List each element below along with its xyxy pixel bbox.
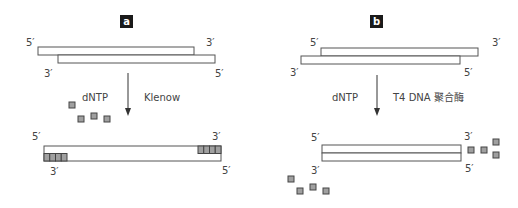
nucleotide-icon xyxy=(69,102,75,108)
panel-a-substrate: 5′ 3′ 3′ 5′ xyxy=(26,37,224,79)
panel-a-substrate-bottom-right-end: 5′ xyxy=(215,68,224,79)
arrow-head-icon xyxy=(125,108,131,116)
nucleotide-icon xyxy=(78,116,84,122)
nucleotide-icon xyxy=(288,176,294,182)
nucleotide-icon xyxy=(468,147,474,153)
panel-a-reaction-arrow xyxy=(125,73,131,116)
nucleotide-icon xyxy=(493,139,499,145)
panel-a-substrate-top-right-end: 3′ xyxy=(206,37,215,48)
nucleotide-icon xyxy=(310,184,316,190)
panel-b-substrate-top-right-end: 3′ xyxy=(492,37,501,48)
panel-b-product-top-strand xyxy=(322,145,461,153)
panel-a-product-duplex xyxy=(44,146,221,161)
panel-a-product-bottom-right-end: 5′ xyxy=(222,165,231,176)
panel-b-substrate: 5′ 3′ 3′ 5′ xyxy=(290,37,501,78)
panel-b-product-top-left-end: 5′ xyxy=(311,132,320,143)
panel-a-left-fill-in xyxy=(44,154,67,162)
panel-b-substrate-bottom-left-end: 3′ xyxy=(290,67,299,78)
panel-a-substrate-bottom-left-end: 3′ xyxy=(44,68,53,79)
panel-b: b 5′ 3′ 3′ 5′ dNTP T4 DNA 聚合酶 5′ 3′ 3′ 5… xyxy=(288,15,501,194)
panel-a: a 5′ 3′ 3′ 5′ dNTP Klenow xyxy=(26,15,231,177)
panel-b-released-nucleotides-left xyxy=(288,176,329,194)
panel-a-badge-label: a xyxy=(123,16,130,27)
nucleotide-icon xyxy=(323,188,329,194)
panel-b-released-nucleotides-right xyxy=(468,139,499,158)
panel-b-reaction-arrow xyxy=(374,75,380,116)
panel-a-product: 5′ 3′ 3′ 5′ xyxy=(32,131,231,177)
nucleotide-icon xyxy=(297,188,303,194)
panel-a-badge: a xyxy=(120,15,133,28)
panel-b-product-bottom-strand xyxy=(322,153,461,161)
nucleotide-icon xyxy=(91,113,97,119)
panel-b-bottom-strand xyxy=(301,56,460,64)
diagram-canvas: a 5′ 3′ 3′ 5′ dNTP Klenow xyxy=(0,0,518,208)
panel-b-top-strand xyxy=(321,48,478,56)
panel-a-top-strand xyxy=(38,47,194,55)
panel-a-substrate-top-left-end: 5′ xyxy=(26,37,35,48)
panel-a-bottom-strand xyxy=(58,55,215,63)
panel-b-product-top-right-end: 3′ xyxy=(464,131,473,142)
panel-a-enzyme-label: Klenow xyxy=(144,92,180,103)
panel-a-right-fill-in xyxy=(198,146,221,154)
panel-a-reagent-dntp: dNTP xyxy=(82,92,108,103)
panel-a-product-bottom-left-end: 3′ xyxy=(50,166,59,177)
nucleotide-icon xyxy=(493,152,499,158)
panel-b-badge-label: b xyxy=(373,16,380,27)
panel-b-product: 5′ 3′ 3′ 5′ xyxy=(311,131,474,176)
arrow-head-icon xyxy=(374,108,380,116)
nucleotide-icon xyxy=(481,147,487,153)
panel-a-product-top-right-end: 3′ xyxy=(212,131,221,142)
panel-b-enzyme-label: T4 DNA 聚合酶 xyxy=(392,91,464,103)
panel-b-product-bottom-left-end: 3′ xyxy=(311,165,320,176)
nucleotide-icon xyxy=(104,116,110,122)
panel-b-reagent-dntp: dNTP xyxy=(332,92,358,103)
panel-a-product-top-left-end: 5′ xyxy=(32,131,41,142)
panel-a-free-dntps xyxy=(69,102,110,122)
panel-b-product-bottom-right-end: 5′ xyxy=(465,163,474,174)
panel-b-badge: b xyxy=(370,15,383,28)
panel-b-substrate-bottom-right-end: 5′ xyxy=(464,67,473,78)
panel-b-substrate-top-left-end: 5′ xyxy=(310,37,319,48)
